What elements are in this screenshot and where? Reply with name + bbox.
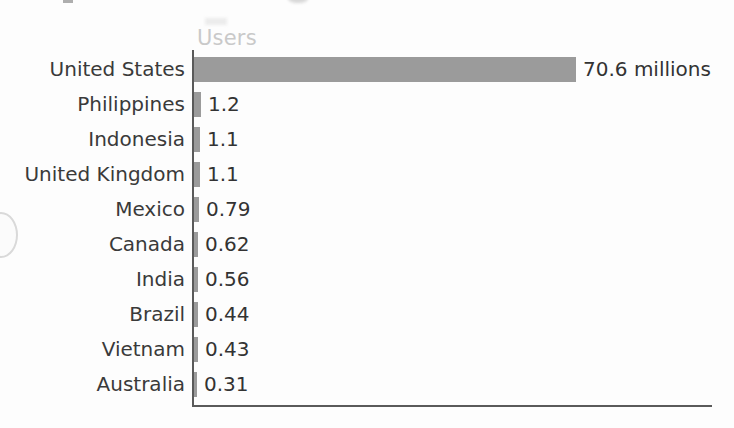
bar-row-label: Indonesia	[88, 122, 185, 157]
bar-fill	[194, 267, 198, 292]
bar-fill	[194, 127, 200, 152]
bar-value-label: 0.43	[205, 332, 250, 367]
bar-value-label: 1.1	[207, 122, 239, 157]
bar-rows: United States70.6 millionsPhilippines1.2…	[0, 52, 734, 402]
bar-row-label: United States	[50, 52, 185, 87]
bar-row-label: Canada	[109, 227, 185, 262]
bar-row: Canada0.62	[0, 227, 734, 262]
bar-row-label: Australia	[97, 367, 185, 402]
bar-value-label: 0.44	[205, 297, 250, 332]
bar-row: Brazil0.44	[0, 297, 734, 332]
column-header-users: Users	[197, 26, 257, 50]
bar-fill	[194, 302, 198, 327]
bar-value-label: 0.79	[206, 192, 251, 227]
scan-artifact-top-left	[63, 0, 73, 3]
bar-row: Australia0.31	[0, 367, 734, 402]
bar-row-label: Brazil	[129, 297, 185, 332]
bar-fill	[194, 232, 198, 257]
bar-row: India0.56	[0, 262, 734, 297]
bar-fill	[194, 337, 198, 362]
bar-value-label: 1.1	[207, 157, 239, 192]
scan-artifact-top-middle	[288, 0, 308, 3]
bar-fill	[194, 197, 199, 222]
bar-row: Mexico0.79	[0, 192, 734, 227]
bar-fill	[194, 372, 197, 397]
bar-value-label: 1.2	[208, 87, 240, 122]
bar-row-label: United Kingdom	[24, 157, 185, 192]
bar-fill	[194, 162, 200, 187]
bar-chart: Users United States70.6 millionsPhilippi…	[0, 0, 734, 428]
bar-row: United Kingdom1.1	[0, 157, 734, 192]
bar-row-label: Mexico	[115, 192, 185, 227]
bar-value-label: 0.62	[205, 227, 250, 262]
bar-row-label: India	[136, 262, 185, 297]
bar-row: Indonesia1.1	[0, 122, 734, 157]
bar-fill	[194, 92, 201, 117]
bar-fill	[194, 57, 576, 82]
bar-row: Vietnam0.43	[0, 332, 734, 367]
bar-value-label: 70.6 millions	[583, 52, 711, 87]
x-axis-line	[192, 405, 712, 407]
scan-artifact-top-right	[205, 18, 227, 25]
bar-row: Philippines1.2	[0, 87, 734, 122]
bar-row: United States70.6 millions	[0, 52, 734, 87]
bar-value-label: 0.56	[205, 262, 250, 297]
bar-row-label: Philippines	[77, 87, 185, 122]
bar-row-label: Vietnam	[102, 332, 185, 367]
bar-value-label: 0.31	[204, 367, 249, 402]
